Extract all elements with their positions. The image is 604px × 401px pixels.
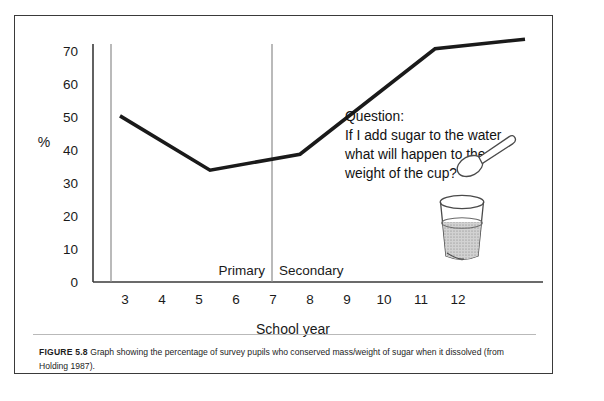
phase-label-primary: Primary	[219, 263, 266, 278]
question-line-4: weight of the cup?	[344, 166, 457, 181]
y-tick-label: 70	[63, 44, 78, 59]
figure-caption-label: FIGURE 5.8	[39, 347, 88, 357]
y-tick-label: 20	[63, 209, 78, 224]
chart-area: 70 60 50 40 30 20 10 0 %	[15, 16, 554, 338]
x-tick-label: 3	[121, 292, 129, 307]
figure-caption-text: Graph showing the percentage of survey p…	[39, 347, 504, 371]
y-tick-label: 40	[63, 143, 78, 158]
x-tick-label: 11	[414, 292, 428, 307]
x-tick-label: 8	[306, 292, 314, 307]
caption-divider	[33, 334, 536, 335]
figure-root: 70 60 50 40 30 20 10 0 %	[0, 0, 604, 401]
cup-of-water-icon	[438, 195, 488, 267]
x-tick-label: 6	[232, 292, 240, 307]
x-axis-ticks: 3 4 5 6 7 8 9 10 11 12	[121, 292, 465, 307]
question-line-1: Question:	[345, 109, 404, 124]
x-tick-label: 4	[158, 292, 166, 307]
y-axis-ticks: 70 60 50 40 30 20 10 0	[63, 44, 78, 290]
x-tick-label: 9	[343, 292, 351, 307]
y-tick-label: 60	[63, 77, 78, 92]
y-tick-label: 10	[63, 242, 78, 257]
figure-caption: FIGURE 5.8 Graph showing the percentage …	[39, 346, 535, 373]
question-line-2: If I add sugar to the water	[345, 128, 502, 143]
figure-frame: 70 60 50 40 30 20 10 0 %	[14, 15, 553, 374]
line-chart: 70 60 50 40 30 20 10 0 %	[15, 16, 554, 338]
y-tick-label: 50	[63, 110, 78, 125]
y-axis-title: %	[38, 134, 50, 150]
phase-label-secondary: Secondary	[279, 263, 344, 278]
x-tick-label: 5	[195, 292, 203, 307]
y-tick-label: 30	[63, 176, 78, 191]
x-tick-label: 7	[269, 292, 277, 307]
x-tick-label: 10	[376, 292, 391, 307]
y-tick-label: 0	[70, 275, 78, 290]
x-tick-label: 12	[450, 292, 465, 307]
